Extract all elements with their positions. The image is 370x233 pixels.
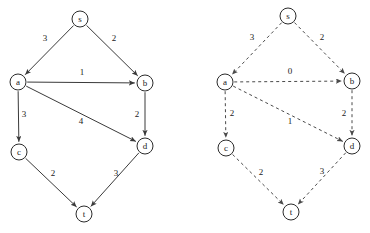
node-b[interactable]: b — [344, 73, 360, 89]
edge-a-c — [225, 91, 226, 138]
node-label-s: s — [78, 14, 82, 24]
edge-weight-s-b: 2 — [112, 33, 117, 43]
node-d[interactable]: d — [137, 138, 153, 154]
edge-weight-c-t: 2 — [259, 167, 264, 177]
edge-s-b — [294, 23, 344, 74]
edge-weight-c-t: 2 — [51, 168, 56, 178]
node-t[interactable]: t — [76, 206, 92, 222]
node-label-c: c — [17, 147, 21, 157]
node-label-a: a — [16, 77, 20, 87]
node-label-d: d — [350, 141, 355, 151]
edge-weight-b-d: 2 — [135, 109, 140, 119]
right-graph-layer: 32021223sabcdt — [217, 8, 360, 220]
edge-d-t — [298, 153, 346, 205]
edge-weight-s-b: 2 — [320, 32, 325, 42]
edge-weight-a-c: 2 — [230, 108, 235, 118]
node-c[interactable]: c — [11, 144, 27, 160]
directed-graph-figure: 32134223sabcdt 32021223sabcdt — [0, 0, 370, 233]
edge-weight-a-d: 1 — [288, 116, 293, 126]
edge-weight-b-d: 2 — [342, 108, 347, 118]
edge-weight-d-t: 3 — [114, 168, 119, 178]
edge-c-t — [233, 154, 284, 204]
node-label-b: b — [143, 78, 148, 88]
right-graph-edge-weights: 32021223 — [230, 32, 347, 177]
node-label-a: a — [223, 77, 227, 87]
edge-weight-a-b: 0 — [288, 66, 293, 76]
edge-weight-d-t: 3 — [320, 166, 325, 176]
left-graph-layer: 32134223sabcdt — [10, 11, 153, 222]
node-label-d: d — [143, 141, 148, 151]
edge-a-b — [27, 82, 135, 83]
node-label-c: c — [224, 143, 228, 153]
node-t[interactable]: t — [283, 204, 299, 220]
edge-s-a — [232, 23, 282, 75]
edge-weight-a-c: 3 — [22, 109, 27, 119]
node-label-b: b — [350, 76, 355, 86]
right-graph-edges — [225, 23, 352, 205]
edge-a-b — [234, 81, 342, 82]
edge-weight-s-a: 3 — [250, 32, 255, 42]
node-a[interactable]: a — [217, 74, 233, 90]
edge-d-t — [91, 153, 139, 207]
node-b[interactable]: b — [137, 75, 153, 91]
edge-s-a — [25, 26, 73, 75]
edge-weight-a-b: 1 — [80, 67, 85, 77]
node-label-s: s — [286, 11, 290, 21]
edge-weight-a-d: 4 — [79, 116, 84, 126]
left-graph-edge-weights: 32134223 — [22, 33, 140, 178]
edge-weight-s-a: 3 — [43, 33, 48, 43]
edge-a-d — [233, 86, 343, 141]
node-s[interactable]: s — [72, 11, 88, 27]
node-a[interactable]: a — [10, 74, 26, 90]
edge-a-c — [18, 91, 19, 142]
edge-c-t — [26, 158, 77, 207]
node-c[interactable]: c — [218, 140, 234, 156]
node-d[interactable]: d — [344, 138, 360, 154]
node-s[interactable]: s — [280, 8, 296, 24]
edge-a-d — [26, 86, 136, 141]
